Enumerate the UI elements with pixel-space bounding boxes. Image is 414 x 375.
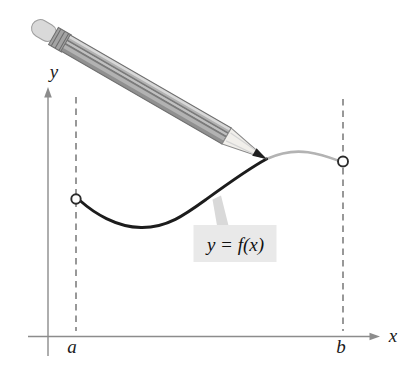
arrow-right-icon bbox=[370, 333, 381, 341]
open-circle-icon-endpoint-b bbox=[338, 157, 348, 167]
function-continuity-figure: y = f(x) bbox=[0, 0, 414, 375]
figure-canvas: y = f(x) bbox=[0, 0, 414, 375]
tick-label-b: b bbox=[336, 336, 346, 357]
y-axis bbox=[44, 87, 52, 356]
curve-pending-segment bbox=[267, 152, 339, 161]
curve-label: y = f(x) bbox=[205, 234, 264, 256]
arrow-up-icon bbox=[44, 87, 52, 98]
y-axis-label: y bbox=[48, 61, 59, 82]
open-circle-icon-endpoint-a bbox=[71, 194, 80, 203]
curve-drawn-segment bbox=[81, 159, 267, 228]
curve-label-pointer bbox=[213, 196, 229, 226]
x-axis-label: x bbox=[388, 325, 398, 346]
pencil-icon bbox=[28, 16, 272, 168]
x-axis bbox=[28, 333, 380, 341]
tick-label-a: a bbox=[67, 336, 77, 357]
pencil-body bbox=[61, 35, 231, 144]
